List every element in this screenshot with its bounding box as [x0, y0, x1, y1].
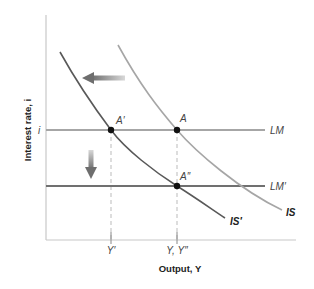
is-lm-diagram: A′ A A″ LM LM′ IS IS′ i Y′ Y, Y″ Output,…: [0, 0, 314, 289]
axes: [46, 15, 296, 240]
label-is-prime: IS′: [230, 216, 242, 227]
label-lm: LM: [270, 125, 285, 136]
point-a: [174, 127, 180, 133]
lm-shift-arrow: [85, 150, 97, 179]
label-a-prime: A′: [115, 115, 126, 126]
point-a-double-prime: [174, 183, 180, 189]
point-a-prime: [108, 127, 114, 133]
label-a-double-prime: A″: [179, 171, 191, 182]
tick-label-y-prime: Y′: [107, 245, 117, 256]
is-shift-arrow: [82, 72, 125, 84]
label-a: A: [179, 113, 187, 124]
label-lm-prime: LM′: [270, 181, 287, 192]
y-axis-title: Interest rate, i: [22, 99, 33, 161]
x-axis-title: Output, Y: [159, 263, 202, 274]
tick-label-i: i: [38, 125, 41, 136]
label-is: IS: [286, 207, 296, 218]
tick-label-y-y-double-prime: Y, Y″: [166, 245, 188, 256]
